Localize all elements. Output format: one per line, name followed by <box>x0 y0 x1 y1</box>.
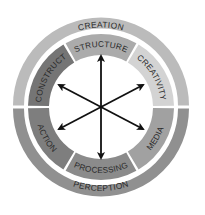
arrow-lower-right-icon <box>101 107 143 129</box>
outer-label-creation: CREATION <box>77 19 125 32</box>
arrow-upper-left-icon <box>59 85 101 107</box>
arrow-upper-right-icon <box>101 85 143 107</box>
arrow-lower-left-icon <box>59 107 101 129</box>
center-arrows <box>59 56 143 158</box>
cycle-diagram: CREATION PERCEPTION STRUCTURE CREATIVITY… <box>0 0 205 215</box>
